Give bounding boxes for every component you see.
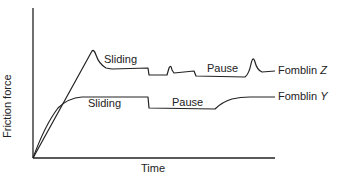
fomblin-y-sliding-label: Sliding [88, 98, 121, 109]
fomblin-z-curve [33, 51, 275, 159]
fomblin-z-legend-label: Fomblin Z [278, 65, 327, 76]
fomblin-z-sliding-label: Sliding [104, 54, 137, 65]
x-axis-label: Time [141, 163, 165, 174]
fomblin-y-curve [33, 97, 275, 158]
fomblin-y-legend-label: Fomblin Y [278, 91, 328, 102]
y-axis-label: Friction force [2, 74, 13, 138]
fomblin-z-pause-label: Pause [207, 63, 238, 74]
fomblin-y-pause-label: Pause [172, 97, 203, 108]
friction-vs-time-figure: Friction force Time Sliding Pause Fombli… [0, 0, 349, 181]
